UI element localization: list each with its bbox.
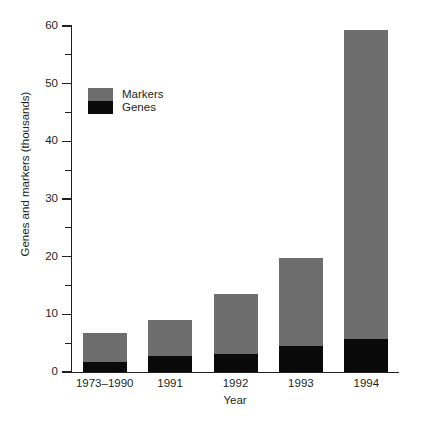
legend-swatch-genes-icon	[88, 101, 113, 114]
bar-segment-genes	[279, 346, 323, 372]
x-tick-label: 1994	[354, 377, 380, 389]
legend-item-markers: Markers	[88, 88, 164, 101]
bar-segment-markers	[83, 333, 127, 362]
y-tick-major	[62, 256, 72, 257]
y-tick-label: 0	[0, 366, 58, 378]
x-tick-label: 1991	[157, 377, 183, 389]
y-tick-major	[62, 314, 72, 315]
bar-segment-markers	[279, 258, 323, 346]
stacked-bar-chart: 0102030405060 Genes and markers (thousan…	[0, 0, 432, 431]
y-tick-minor	[65, 227, 72, 228]
x-tick-label: 1993	[288, 377, 314, 389]
legend-item-genes: Genes	[88, 101, 164, 114]
bar-segment-genes	[344, 339, 388, 372]
x-tick-label: 1992	[223, 377, 249, 389]
y-axis-title: Genes and markers (thousands)	[19, 9, 31, 339]
y-tick-major	[62, 83, 72, 84]
bar-3	[214, 26, 258, 372]
bar-2	[148, 26, 192, 372]
legend-swatch-markers-icon	[88, 88, 113, 101]
legend-label-markers: Markers	[122, 89, 164, 101]
bar-4	[279, 26, 323, 372]
y-tick-major	[62, 141, 72, 142]
bar-segment-markers	[344, 30, 388, 339]
y-tick-minor	[65, 112, 72, 113]
bar-segment-genes	[148, 356, 192, 372]
bar-segment-genes	[83, 362, 127, 372]
chart-legend: Markers Genes	[88, 88, 164, 114]
y-tick-major	[62, 25, 72, 26]
bar-5	[344, 26, 388, 372]
y-tick-major	[62, 198, 72, 199]
x-tick-label: 1973–1990	[76, 377, 134, 389]
x-axis-title: Year	[71, 394, 399, 406]
bar-segment-markers	[214, 294, 258, 354]
y-tick-minor	[65, 54, 72, 55]
plot-area	[72, 26, 399, 372]
bar-1	[83, 26, 127, 372]
legend-label-genes: Genes	[122, 102, 156, 114]
y-tick-major	[62, 371, 72, 372]
bar-segment-markers	[148, 320, 192, 356]
y-tick-minor	[65, 285, 72, 286]
y-tick-minor	[65, 343, 72, 344]
y-tick-minor	[65, 170, 72, 171]
bar-segment-genes	[214, 354, 258, 372]
